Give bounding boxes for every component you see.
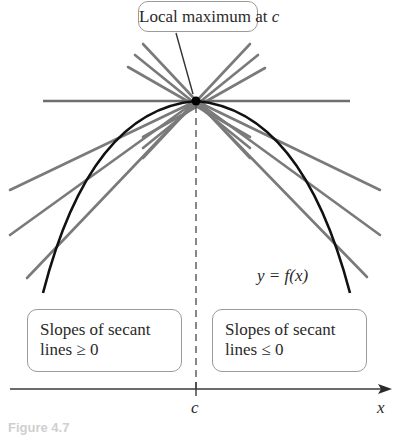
x-axis-label: x (377, 398, 385, 418)
secant-line (196, 101, 380, 190)
c-tick-label: c (191, 398, 199, 418)
figure-caption: Figure 4.7 (8, 420, 69, 435)
secant-lines (10, 44, 380, 278)
title-prefix: Local maximum at (139, 7, 272, 26)
right-slope-line1: Slopes of secant (225, 320, 366, 340)
local-maximum-label: Local maximum at c (138, 1, 258, 32)
title-var: c (272, 7, 280, 26)
secant-line (196, 101, 380, 235)
secant-line (10, 101, 196, 190)
left-slope-line2: lines ≥ 0 (40, 340, 181, 360)
secant-line (10, 101, 196, 235)
right-slope-box: Slopes of secant lines ≤ 0 (212, 309, 367, 372)
left-slope-box: Slopes of secant lines ≥ 0 (27, 309, 182, 372)
right-slope-line2: lines ≤ 0 (225, 340, 366, 360)
secant-line (196, 101, 367, 277)
maximum-point (192, 97, 201, 106)
left-slope-line1: Slopes of secant (40, 320, 181, 340)
function-label: y = f(x) (257, 266, 308, 286)
label-pointer-line (176, 33, 193, 94)
